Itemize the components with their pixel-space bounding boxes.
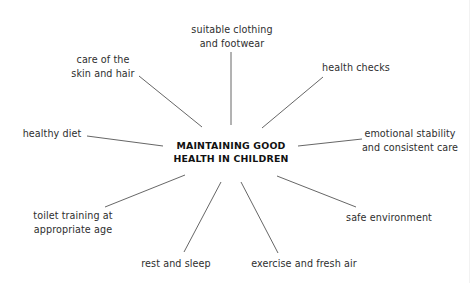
branch-label-toilet-training: toilet training at appropriate age <box>33 209 112 237</box>
label-line: rest and sleep <box>141 257 211 271</box>
central-topic: MAINTAINING GOOD HEALTH IN CHILDREN <box>173 139 288 165</box>
connector-safe-environment <box>277 176 356 207</box>
label-line: emotional stability <box>362 127 458 141</box>
connector-healthy-diet <box>87 136 163 146</box>
central-topic-line2: HEALTH IN CHILDREN <box>173 152 288 165</box>
branch-label-skin-hair: care of the skin and hair <box>71 53 134 81</box>
connector-health-checks <box>262 77 323 128</box>
branch-label-emotional: emotional stability and consistent care <box>362 127 458 155</box>
page-edge-divider <box>469 0 470 283</box>
label-line: care of the <box>71 53 134 67</box>
connector-toilet-training <box>105 175 185 207</box>
label-line: toilet training at <box>33 209 112 223</box>
central-topic-line1: MAINTAINING GOOD <box>173 139 288 152</box>
label-line: appropriate age <box>33 223 112 237</box>
connector-rest <box>184 182 221 252</box>
label-line: skin and hair <box>71 67 134 81</box>
label-line: health checks <box>322 61 390 75</box>
connector-exercise <box>241 182 278 253</box>
branch-label-safe-environment: safe environment <box>346 211 432 225</box>
branch-label-healthy-diet: healthy diet <box>23 127 82 141</box>
label-line: and consistent care <box>362 141 458 155</box>
label-line: safe environment <box>346 211 432 225</box>
branch-label-health-checks: health checks <box>322 61 390 75</box>
branch-label-exercise: exercise and fresh air <box>251 257 357 271</box>
branch-label-clothing: suitable clothing and footwear <box>191 23 272 51</box>
label-line: and footwear <box>191 37 272 51</box>
spider-diagram: MAINTAINING GOOD HEALTH IN CHILDREN suit… <box>0 0 474 283</box>
connector-skin-hair <box>139 76 202 127</box>
label-line: exercise and fresh air <box>251 257 357 271</box>
connector-emotional <box>298 139 362 146</box>
branch-label-rest: rest and sleep <box>141 257 211 271</box>
label-line: suitable clothing <box>191 23 272 37</box>
label-line: healthy diet <box>23 127 82 141</box>
